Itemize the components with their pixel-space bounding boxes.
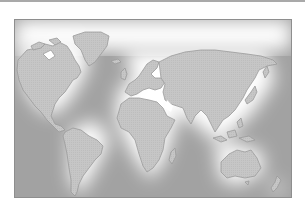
world-map-graphic bbox=[15, 20, 291, 197]
world-map bbox=[14, 19, 292, 198]
top-rule bbox=[0, 0, 305, 2]
